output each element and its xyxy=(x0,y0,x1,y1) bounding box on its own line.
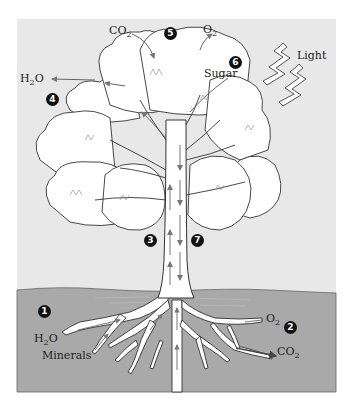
sugar-label: Sugar xyxy=(204,68,237,79)
o2-release-label: O2 xyxy=(203,24,217,35)
co2-root-label: CO2 xyxy=(277,346,300,357)
step-badge-5: 5 xyxy=(164,27,177,40)
light-label: Light xyxy=(297,50,326,61)
step-badge-7: 7 xyxy=(191,234,204,247)
minerals-label: Minerals xyxy=(42,350,91,361)
step-badge-6: 6 xyxy=(229,56,242,69)
step-badge-3: 3 xyxy=(144,234,157,247)
o2-root-label: O2 xyxy=(266,313,280,324)
tree-diagram: CO2 O2 H2O Sugar Light H2O Minerals O2 C… xyxy=(0,0,352,402)
h2o-transpiration-label: H2O xyxy=(20,73,44,84)
step-badge-4: 4 xyxy=(46,93,59,106)
co2-intake-label: CO2 xyxy=(109,25,132,36)
step-badge-2: 2 xyxy=(284,321,297,334)
step-badge-1: 1 xyxy=(38,305,51,318)
h2o-uptake-label: H2O xyxy=(34,333,58,344)
